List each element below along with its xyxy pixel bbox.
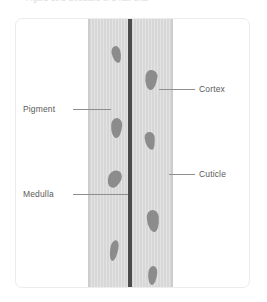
label-cuticle: Cuticle xyxy=(199,169,226,179)
hair-shaft-diagram xyxy=(88,18,173,288)
medulla-leader xyxy=(73,194,128,195)
cortex-leader xyxy=(159,89,195,90)
pigment-leader xyxy=(73,109,111,110)
label-medulla: Medulla xyxy=(23,189,54,199)
cuticle-layer-left xyxy=(88,18,90,288)
cuticle-leader xyxy=(169,174,195,175)
label-pigment: Pigment xyxy=(23,104,55,114)
cuticle-layer-right xyxy=(171,18,173,288)
figure-card: PigmentMedullaCortexCuticle xyxy=(15,18,250,288)
figure-caption: Figure 10.3 Structure of a hair shaft xyxy=(26,0,148,3)
label-cortex: Cortex xyxy=(199,84,225,94)
medulla-layer xyxy=(128,18,132,288)
